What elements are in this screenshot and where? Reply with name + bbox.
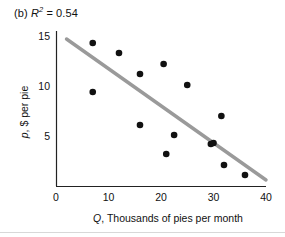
- data-point: [137, 122, 144, 129]
- y-axis-title: p, $ per pie: [18, 86, 30, 140]
- x-tick-label-0: 0: [53, 191, 59, 203]
- data-point: [89, 40, 96, 47]
- data-point: [184, 82, 191, 89]
- plot-canvas: 15 10 5 0 10 20 30 40 p, $ per pie Q, Th…: [0, 0, 285, 237]
- data-point: [242, 172, 249, 179]
- data-point: [171, 132, 178, 139]
- x-tick-label-30: 30: [208, 191, 220, 203]
- data-point: [218, 113, 225, 120]
- data-point: [210, 140, 217, 147]
- x-tick-label-20: 20: [155, 191, 167, 203]
- trend-line: [67, 39, 267, 180]
- x-axis-title-symbol: Q: [93, 212, 101, 224]
- x-axis-title: Q, Thousands of pies per month: [93, 212, 243, 224]
- data-point: [160, 61, 167, 68]
- data-point: [89, 89, 96, 96]
- y-axis-title-rest: , $ per pie: [18, 86, 30, 133]
- data-points-group: [89, 40, 248, 179]
- x-tick-label-10: 10: [103, 191, 115, 203]
- x-tick-label-40: 40: [260, 191, 272, 203]
- data-point: [137, 71, 144, 78]
- y-tick-label-10: 10: [38, 80, 50, 92]
- x-axis-title-rest: , Thousands of pies per month: [101, 212, 243, 224]
- data-point: [221, 162, 228, 169]
- scatter-plot-figure: (b) R2 = 0.54 15 10 5 0 10 20 30 40 p, $…: [0, 0, 285, 237]
- y-tick-label-5: 5: [44, 130, 50, 142]
- bottom-divider: [0, 232, 285, 233]
- y-tick-label-15: 15: [38, 30, 50, 42]
- data-point: [116, 50, 123, 57]
- data-point: [163, 151, 170, 158]
